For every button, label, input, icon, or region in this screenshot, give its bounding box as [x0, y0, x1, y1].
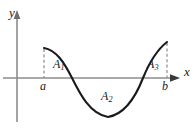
- region-label-a1-subscript: 1: [61, 63, 65, 72]
- region-label-a2-letter: A: [101, 89, 108, 103]
- region-label-a3: A3: [147, 58, 159, 72]
- x-axis-arrowhead-icon: [170, 74, 180, 81]
- region-label-a2-subscript: 2: [109, 95, 113, 104]
- region-label-a1-letter: A: [53, 57, 60, 71]
- region-label-a2: A2: [101, 90, 113, 104]
- tick-label-a: a: [40, 80, 46, 92]
- region-label-a3-subscript: 3: [155, 63, 159, 72]
- region-label-a3-letter: A: [147, 57, 154, 71]
- function-curve: [44, 42, 167, 117]
- region-label-a1: A1: [53, 58, 65, 72]
- integral-area-figure: y x a b A1 A2 A3: [0, 0, 195, 132]
- y-axis-label: y: [9, 6, 15, 19]
- figure-canvas: [0, 0, 195, 132]
- x-axis-label: x: [184, 65, 190, 78]
- tick-label-b: b: [162, 80, 168, 92]
